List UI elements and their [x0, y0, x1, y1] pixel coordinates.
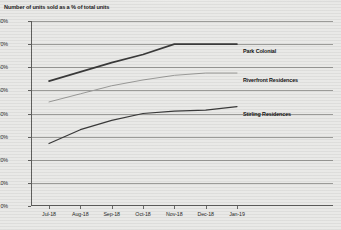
- y-tick-label: 30%: [0, 134, 8, 140]
- y-tick-label: 80%: [0, 18, 8, 24]
- x-tick-mark: [206, 206, 207, 209]
- x-tick-label: Aug-18: [72, 211, 88, 217]
- y-tick-label: 20%: [0, 157, 8, 163]
- x-tick-mark: [80, 206, 81, 209]
- y-tick-label: 60%: [0, 64, 8, 70]
- x-tick-label: Jan-19: [229, 211, 245, 217]
- x-tick-mark: [49, 206, 50, 209]
- x-tick-mark: [174, 206, 175, 209]
- chart-container: Number of units sold as a % of total uni…: [0, 0, 341, 230]
- y-tick-label: 50%: [0, 87, 8, 93]
- chart-title: Number of units sold as a % of total uni…: [4, 4, 109, 10]
- series-line: [49, 107, 237, 144]
- series-label-riverfront-residences: Riverfront Residences: [243, 77, 298, 83]
- y-tick-mark: [28, 206, 31, 207]
- y-tick-label: 70%: [0, 41, 8, 47]
- x-tick-label: Jul-18: [42, 211, 56, 217]
- series-label-park-colonial: Park Colonial: [243, 48, 276, 54]
- x-tick-mark: [143, 206, 144, 209]
- x-tick-label: Sep-18: [103, 211, 119, 217]
- y-tick-label: 10%: [0, 180, 8, 186]
- y-tick-label: 0%: [0, 203, 8, 209]
- scan-artifact-strip: [0, 0, 341, 3]
- series-line: [49, 44, 237, 81]
- x-tick-label: Oct-18: [135, 211, 150, 217]
- x-tick-label: Nov-18: [166, 211, 182, 217]
- x-tick-mark: [112, 206, 113, 209]
- series-label-stirling-residences: Stirling Residences: [243, 111, 291, 117]
- x-tick-label: Dec-18: [197, 211, 213, 217]
- series-line: [49, 73, 237, 102]
- y-tick-label: 40%: [0, 111, 8, 117]
- x-tick-mark: [237, 206, 238, 209]
